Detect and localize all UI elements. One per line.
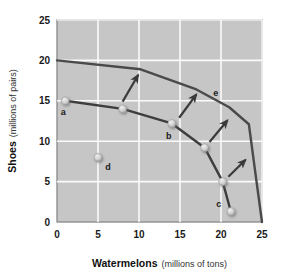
y-axis-title-light: (millions of pairs) bbox=[8, 69, 18, 137]
marker-inner-frontier-0 bbox=[61, 97, 69, 105]
production-possibilities-chart: abcde 05101520250510152025Watermelons(mi… bbox=[0, 0, 284, 277]
xtick-label-2: 10 bbox=[133, 229, 145, 240]
y-axis-title-bold: Shoes bbox=[6, 141, 18, 173]
label-point-d: d bbox=[105, 162, 111, 172]
xtick-label-3: 15 bbox=[174, 229, 186, 240]
label-point-b: b bbox=[166, 131, 172, 141]
xtick-label-4: 20 bbox=[215, 229, 227, 240]
x-axis-title-bold: Watermelons bbox=[92, 257, 158, 269]
marker-inner-frontier-3 bbox=[201, 144, 209, 152]
chart-figure: abcde 05101520250510152025Watermelons(mi… bbox=[0, 0, 284, 277]
marker-inner-frontier-2 bbox=[168, 120, 176, 128]
ytick-label-3: 15 bbox=[39, 95, 51, 106]
ytick-label-5: 25 bbox=[39, 15, 51, 26]
label-point-c: c bbox=[216, 199, 221, 209]
marker-inner-frontier-4 bbox=[219, 178, 227, 186]
ytick-label-2: 10 bbox=[39, 136, 51, 147]
x-axis-title-light: (millions of tons) bbox=[162, 259, 228, 269]
ytick-label-0: 0 bbox=[44, 217, 50, 228]
marker-inner-frontier-5 bbox=[227, 208, 235, 216]
ytick-label-4: 20 bbox=[39, 55, 51, 66]
ytick-label-1: 5 bbox=[44, 176, 50, 187]
label-point-e: e bbox=[213, 88, 218, 98]
marker-inner-frontier-1 bbox=[119, 105, 127, 113]
xtick-label-5: 25 bbox=[256, 229, 268, 240]
xtick-label-0: 0 bbox=[54, 229, 60, 240]
y-axis-title: Shoes(millions of pairs) bbox=[6, 69, 18, 173]
marker-point-d bbox=[94, 153, 102, 161]
xtick-label-1: 5 bbox=[95, 229, 101, 240]
